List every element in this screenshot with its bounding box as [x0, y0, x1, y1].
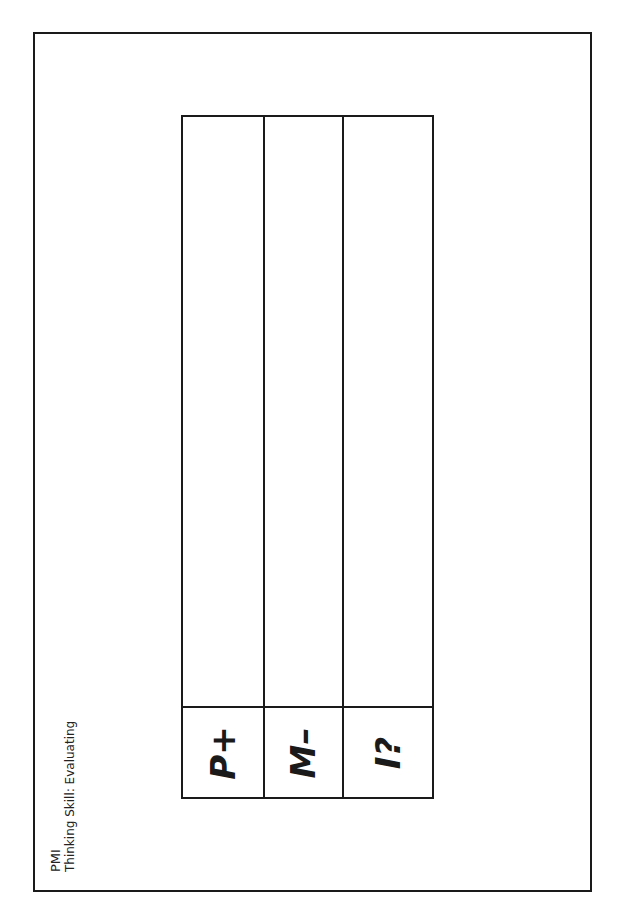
minus-label: M– [284, 727, 324, 778]
plus-label: P+ [203, 726, 243, 779]
column-plus: P+ [183, 117, 265, 797]
document-title: PMI [48, 721, 63, 872]
column-interesting: I? [344, 117, 432, 797]
column-minus: M– [265, 117, 344, 797]
document-subtitle: Thinking Skill: Evaluating [63, 721, 77, 872]
interesting-writing-area[interactable] [344, 117, 432, 708]
interesting-label: I? [368, 736, 408, 768]
pmi-chart: P+ M– I? [181, 115, 434, 799]
interesting-header: I? [344, 708, 432, 797]
plus-header: P+ [183, 708, 263, 797]
minus-writing-area[interactable] [265, 117, 342, 708]
caption: PMI Thinking Skill: Evaluating [48, 721, 77, 872]
minus-header: M– [265, 708, 342, 797]
plus-writing-area[interactable] [183, 117, 263, 708]
